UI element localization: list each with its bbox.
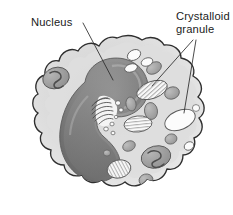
cropped-header-text <box>22 0 142 4</box>
cell-diagram-svg: Nucleus Crystalloid granule <box>0 0 233 215</box>
label-crystalloid-granule-line1: Crystalloid <box>176 10 230 22</box>
cell-diagram-figure: Nucleus Crystalloid granule <box>0 0 233 215</box>
label-crystalloid-granule-line2: granule <box>176 23 214 35</box>
label-nucleus: Nucleus <box>31 16 73 28</box>
